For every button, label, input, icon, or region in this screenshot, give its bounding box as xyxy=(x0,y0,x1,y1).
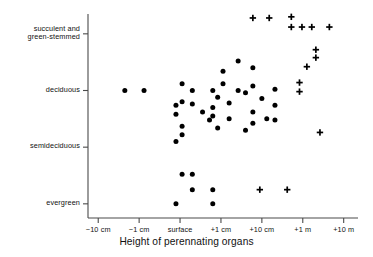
data-point-plus xyxy=(304,64,310,70)
data-point-dot xyxy=(142,88,147,93)
data-point-dot xyxy=(210,105,215,110)
data-point-dot xyxy=(173,103,178,108)
data-point-plus xyxy=(296,79,302,85)
data-point-plus xyxy=(299,24,305,30)
data-point-dot xyxy=(243,90,248,95)
data-point-plus xyxy=(266,15,272,21)
data-point-plus xyxy=(284,186,290,192)
y-tick-label: evergreen xyxy=(46,199,80,208)
data-point-dot xyxy=(200,110,205,115)
data-point-dot xyxy=(180,124,185,129)
data-point-dot xyxy=(272,103,277,108)
data-point-plus xyxy=(250,15,256,21)
y-tick-label: deciduous xyxy=(46,86,80,95)
data-point-plus xyxy=(313,54,319,60)
y-axis-ticks xyxy=(83,34,88,204)
data-point-dot xyxy=(210,88,215,93)
data-point-plus xyxy=(326,24,332,30)
data-point-dot xyxy=(173,112,178,117)
data-point-dot xyxy=(180,172,185,177)
data-point-dot xyxy=(243,128,248,133)
data-point-plus xyxy=(296,88,302,94)
data-point-dot xyxy=(272,87,277,92)
y-tick-label: succulent andgreen-stemmed xyxy=(28,25,80,42)
data-point-dot xyxy=(190,102,195,107)
data-point-plus xyxy=(317,129,323,135)
x-axis-title: Height of perennating organs xyxy=(0,236,373,247)
data-point-dot xyxy=(272,117,277,122)
data-point-dot xyxy=(236,88,241,93)
data-point-dot xyxy=(180,81,185,86)
scatter-chart-figure: succulent andgreen-stemmeddeciduoussemid… xyxy=(0,0,373,257)
data-point-dot xyxy=(207,117,212,122)
data-point-plus xyxy=(309,24,315,30)
data-point-dot xyxy=(190,187,195,192)
data-point-dot xyxy=(173,201,178,206)
data-point-dot xyxy=(250,65,255,70)
data-point-dot xyxy=(210,114,215,119)
data-point-plus xyxy=(288,24,294,30)
data-point-dot xyxy=(250,110,255,115)
data-point-plus xyxy=(288,14,294,20)
data-markers xyxy=(122,14,332,207)
data-point-dot xyxy=(210,187,215,192)
x-tick-label: +10 m xyxy=(314,225,373,234)
y-tick-label: semideciduous xyxy=(30,142,80,151)
data-point-dot xyxy=(180,132,185,137)
data-point-dot xyxy=(190,172,195,177)
data-point-dot xyxy=(173,139,178,144)
data-point-dot xyxy=(250,83,255,88)
data-point-plus xyxy=(313,47,319,53)
data-point-dot xyxy=(259,96,264,101)
data-point-dot xyxy=(221,69,226,74)
data-point-dot xyxy=(250,121,255,126)
data-point-dot xyxy=(227,116,232,121)
data-point-dot xyxy=(122,88,127,93)
x-axis-ticks xyxy=(98,218,343,223)
axis-lines xyxy=(88,14,358,218)
data-point-dot xyxy=(180,99,185,104)
data-point-dot xyxy=(215,95,220,100)
data-point-dot xyxy=(264,116,269,121)
data-point-dot xyxy=(236,59,241,64)
data-point-dot xyxy=(215,125,220,130)
data-point-dot xyxy=(210,201,215,206)
data-point-plus xyxy=(257,186,263,192)
data-point-dot xyxy=(227,100,232,105)
data-point-dot xyxy=(190,88,195,93)
data-point-dot xyxy=(221,81,226,86)
